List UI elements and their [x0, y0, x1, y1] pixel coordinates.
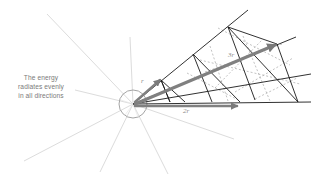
label-r: r	[141, 77, 144, 85]
arrow-3r	[135, 45, 275, 104]
caption-line-3: in all directions	[8, 91, 74, 100]
caption-line-2: radiates evenly	[8, 82, 74, 91]
dashed-subgrid	[187, 28, 300, 101]
label-3r: 3r	[228, 51, 234, 59]
caption-line-1: The energy	[8, 73, 74, 82]
label-2r: 2r	[183, 107, 189, 115]
projection-grid	[133, 10, 311, 104]
energy-caption: The energy radiates evenly in all direct…	[8, 73, 74, 100]
